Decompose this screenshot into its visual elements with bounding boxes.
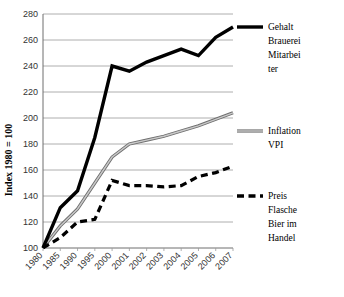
legend-label: VPI	[268, 140, 283, 150]
y-tick-label: 240	[23, 61, 38, 71]
line-chart: Index 1980 = 100 280 260 240 220 200 180…	[0, 0, 344, 297]
y-axis-title: Index 1980 = 100	[3, 124, 14, 197]
legend-label: Preis	[268, 191, 287, 201]
legend-label: Brauerei	[268, 36, 301, 46]
y-tick-label: 200	[23, 113, 38, 123]
legend-label: Bier im	[268, 219, 297, 229]
y-tick-label: 220	[23, 87, 38, 97]
y-tick-label: 180	[23, 139, 38, 149]
legend-label: ter	[268, 64, 279, 74]
legend-label: Inflation	[268, 126, 301, 136]
legend-label: Mitarbei	[268, 50, 301, 60]
legend-label: Handel	[268, 233, 296, 243]
y-tick-label: 260	[23, 35, 38, 45]
y-tick-label: 160	[23, 165, 38, 175]
chart-figure: Index 1980 = 100 280 260 240 220 200 180…	[0, 0, 344, 297]
y-tick-label: 120	[23, 217, 38, 227]
y-tick-label: 280	[23, 9, 38, 19]
legend-label: Flasche	[268, 205, 297, 215]
legend-label: Gehalt	[268, 22, 294, 32]
y-tick-label: 140	[23, 191, 38, 201]
